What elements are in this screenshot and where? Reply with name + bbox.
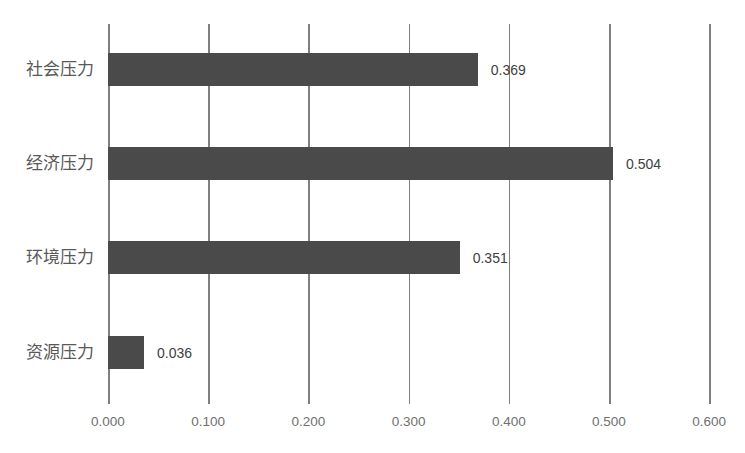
x-tick-label: 0.000	[78, 414, 138, 429]
value-label: 0.036	[157, 344, 192, 362]
category-label: 经济压力	[0, 153, 94, 173]
gridline	[509, 24, 511, 404]
bar	[108, 147, 613, 180]
x-tick-label: 0.600	[679, 414, 739, 429]
x-tick-label: 0.100	[178, 414, 238, 429]
value-label: 0.369	[491, 61, 526, 79]
x-tick-label: 0.200	[278, 414, 338, 429]
category-label: 资源压力	[0, 342, 94, 362]
category-label: 社会压力	[0, 59, 94, 79]
x-tick-label: 0.400	[479, 414, 539, 429]
bar	[108, 53, 478, 86]
x-tick-label: 0.300	[379, 414, 439, 429]
category-label: 环境压力	[0, 247, 94, 267]
x-tick-label: 0.500	[579, 414, 639, 429]
value-label: 0.351	[473, 249, 508, 267]
gridline	[609, 24, 611, 404]
value-label: 0.504	[626, 155, 661, 173]
bar	[108, 241, 460, 274]
bar	[108, 336, 144, 369]
gridline	[709, 24, 711, 404]
horizontal-bar-chart: 0.0000.1000.2000.3000.4000.5000.600 社会压力…	[0, 0, 745, 453]
